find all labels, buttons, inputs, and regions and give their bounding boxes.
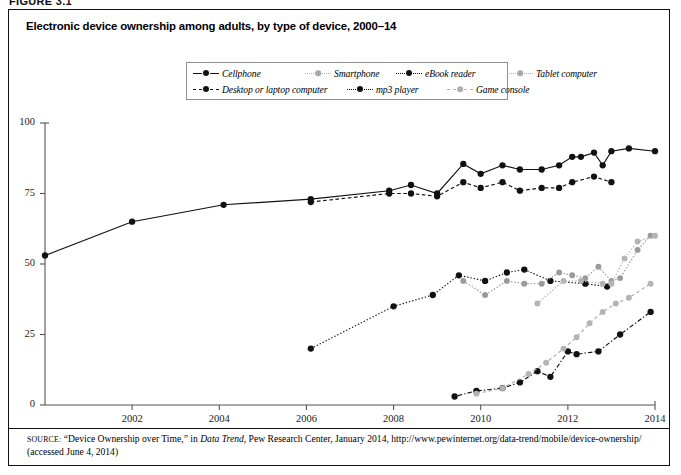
y-axis-tick-label: 25 [9, 328, 35, 339]
legend-marker-icon [305, 68, 331, 78]
legend-line-right [210, 89, 219, 91]
legend-line-left [193, 73, 202, 74]
chart-legend: CellphoneSmartphoneeBook readerTablet co… [186, 62, 508, 100]
legend-dot-icon [315, 70, 321, 76]
legend-line-right [464, 89, 473, 91]
legend-line-right [322, 73, 331, 75]
x-axis-tick-label: 2008 [374, 413, 414, 424]
y-axis-tick-label: 50 [9, 257, 35, 268]
figure-page: FIGURE 3.1 Electronic device ownership a… [0, 0, 681, 475]
x-axis-tick-label: 2012 [548, 413, 588, 424]
legend-marker-icon [193, 84, 219, 94]
figure-number-label: FIGURE 3.1 [9, 0, 72, 5]
legend-item-game-console[interactable]: Game console [447, 81, 529, 97]
legend-label: Cellphone [222, 68, 261, 79]
legend-dot-icon [406, 70, 412, 76]
source-note: SOURCE: “Device Ownership over Time,” in… [27, 433, 657, 459]
source-body-1: “Device Ownership over Time,” in [64, 433, 200, 444]
legend-line-left [396, 73, 405, 75]
legend-item-cellphone[interactable]: Cellphone [193, 65, 261, 81]
legend-dot-icon [203, 70, 209, 76]
legend-marker-icon [396, 68, 422, 78]
legend-line-left [447, 89, 456, 91]
legend-row-2: Desktop or laptop computermp3 playerGame… [187, 81, 507, 97]
x-axis-tick-label: 2004 [199, 413, 239, 424]
legend-line-left [305, 73, 314, 75]
x-axis-tick-label: 2014 [635, 413, 675, 424]
legend-dot-icon [357, 86, 363, 92]
source-note-box: SOURCE: “Device Ownership over Time,” in… [9, 428, 669, 466]
chart-title: Electronic device ownership among adults… [26, 20, 396, 32]
x-axis-tick-label: 2002 [112, 413, 152, 424]
legend-line-right [524, 73, 533, 75]
legend-marker-icon [347, 84, 373, 94]
legend-label: Desktop or laptop computer [222, 84, 327, 95]
legend-line-right [210, 73, 219, 74]
legend-label: Game console [476, 84, 529, 95]
legend-line-right [413, 73, 422, 75]
legend-marker-icon [193, 68, 219, 78]
legend-item-mp3-player[interactable]: mp3 player [347, 81, 418, 97]
x-axis-tick-label: 2006 [286, 413, 326, 424]
legend-dot-icon [517, 70, 523, 76]
legend-item-tablet-computer[interactable]: Tablet computer [507, 65, 597, 81]
legend-row-1: CellphoneSmartphoneeBook readerTablet co… [187, 65, 507, 81]
source-italic-1: Data Trend [200, 433, 244, 444]
legend-label: eBook reader [425, 68, 475, 79]
source-prefix: SOURCE: [27, 435, 61, 444]
legend-label: Tablet computer [536, 68, 597, 79]
legend-item-smartphone[interactable]: Smartphone [305, 65, 379, 81]
legend-label: mp3 player [376, 84, 418, 95]
legend-dot-icon [203, 86, 209, 92]
y-axis-tick-label: 0 [9, 398, 35, 409]
legend-item-ebook-reader[interactable]: eBook reader [396, 65, 475, 81]
x-axis-tick-label: 2010 [461, 413, 501, 424]
legend-line-left [507, 73, 516, 75]
legend-dot-icon [457, 86, 463, 92]
legend-line-right [364, 89, 373, 91]
legend-item-desktop-or-laptop-computer[interactable]: Desktop or laptop computer [193, 81, 327, 97]
y-axis-tick-label: 75 [9, 187, 35, 198]
legend-line-left [193, 89, 202, 91]
legend-marker-icon [507, 68, 533, 78]
legend-marker-icon [447, 84, 473, 94]
y-axis-tick-label: 100 [9, 116, 35, 127]
legend-label: Smartphone [334, 68, 379, 79]
legend-line-left [347, 89, 356, 91]
